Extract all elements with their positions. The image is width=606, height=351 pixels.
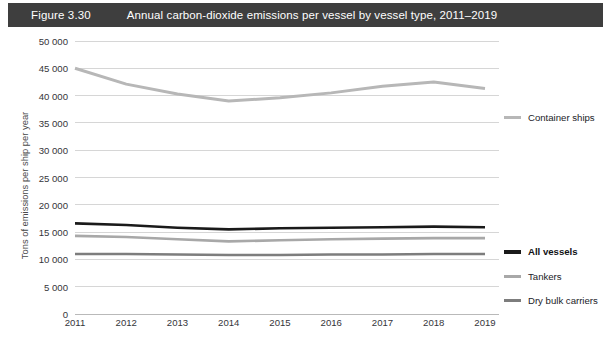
legend-entry: Container ships — [504, 112, 595, 123]
legend-swatch — [504, 299, 521, 302]
figure-title-banner: Figure 3.30 Annual carbon-dioxide emissi… — [8, 3, 603, 27]
figure-title: Annual carbon-dioxide emissions per vess… — [127, 9, 497, 21]
legend-label: Tankers — [528, 271, 562, 282]
legend-entry: Tankers — [504, 271, 562, 282]
legend-label: Dry bulk carriers — [528, 295, 598, 306]
figure-number: Figure 3.30 — [31, 9, 91, 21]
legend-swatch — [504, 116, 521, 119]
legend-swatch — [504, 250, 521, 254]
legend-label: Container ships — [528, 112, 595, 123]
series-line — [75, 254, 485, 255]
series-line — [75, 68, 485, 101]
series-line — [75, 236, 485, 241]
x-axis-tick-label: 2019 — [455, 317, 515, 328]
legend-label: All vessels — [528, 246, 578, 257]
x-axis-tick-labels: 201120122013201420152016201720182019 — [75, 317, 485, 339]
series-line — [75, 223, 485, 229]
legend-entry: All vessels — [504, 246, 578, 257]
chart-container: Tons of emissions per ship per year 05 0… — [0, 28, 606, 351]
legend-swatch — [504, 275, 521, 278]
legend-entry: Dry bulk carriers — [504, 295, 598, 306]
series-lines — [75, 68, 485, 255]
